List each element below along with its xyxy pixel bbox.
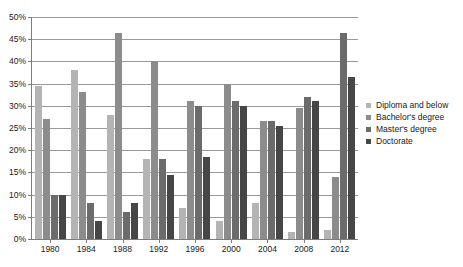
legend-item[interactable]: Bachelor's degree (366, 113, 448, 122)
bar (276, 126, 283, 239)
bar (151, 61, 158, 239)
bar-group (249, 17, 285, 239)
bar-group (104, 17, 140, 239)
legend-item[interactable]: Doctorate (366, 137, 448, 146)
bar (59, 195, 66, 239)
y-tick-label: 0% (14, 235, 26, 244)
bars-layer (32, 17, 358, 239)
bar (43, 119, 50, 239)
bar-group (141, 17, 177, 239)
bar-group (68, 17, 104, 239)
legend-swatch-icon (366, 127, 371, 132)
x-tick-mark (340, 239, 341, 243)
bar (252, 203, 259, 239)
legend-label: Bachelor's degree (376, 113, 444, 122)
x-tick-mark (50, 239, 51, 243)
bar (51, 195, 58, 239)
y-tick-mark (28, 239, 32, 240)
y-tick-label: 35% (9, 79, 26, 88)
legend-label: Diploma and below (376, 101, 448, 110)
bar (167, 175, 174, 239)
y-tick-label: 25% (9, 124, 26, 133)
bar (35, 86, 42, 239)
x-tick-mark (267, 239, 268, 243)
bar-group (32, 17, 68, 239)
x-tick-mark (195, 239, 196, 243)
y-tick-label: 50% (9, 13, 26, 22)
bar (332, 177, 339, 239)
bar (115, 33, 122, 239)
bar (304, 97, 311, 239)
bar (224, 84, 231, 239)
x-tick-label: 2012 (330, 245, 349, 254)
x-tick-label: 2008 (294, 245, 313, 254)
y-tick-label: 30% (9, 102, 26, 111)
bar (348, 77, 355, 239)
bar (87, 203, 94, 239)
x-tick-label: 1980 (41, 245, 60, 254)
bar (95, 221, 102, 239)
x-tick-mark (304, 239, 305, 243)
x-tick-mark (231, 239, 232, 243)
y-tick-label: 45% (9, 35, 26, 44)
bar (131, 203, 138, 239)
bar (324, 230, 331, 239)
x-tick-mark (86, 239, 87, 243)
bar (288, 232, 295, 239)
bar-chart: 0%5%10%15%20%25%30%35%40%45%50% 19801984… (0, 0, 463, 267)
bar-group (322, 17, 358, 239)
bar (268, 121, 275, 239)
legend-swatch-icon (366, 139, 371, 144)
bar (159, 159, 166, 239)
legend-swatch-icon (366, 103, 371, 108)
plot-area: 0%5%10%15%20%25%30%35%40%45%50% 19801984… (31, 17, 358, 240)
x-tick-label: 2000 (222, 245, 241, 254)
x-tick-mark (159, 239, 160, 243)
y-tick-label: 15% (9, 168, 26, 177)
bar (123, 212, 130, 239)
x-tick-label: 1988 (113, 245, 132, 254)
bar (216, 221, 223, 239)
x-tick-mark (123, 239, 124, 243)
bar (312, 101, 319, 239)
y-tick-label: 20% (9, 146, 26, 155)
bar (240, 106, 247, 239)
bar (260, 121, 267, 239)
legend-swatch-icon (366, 115, 371, 120)
y-tick-label: 40% (9, 57, 26, 66)
x-tick-label: 1996 (186, 245, 205, 254)
x-tick-label: 1984 (77, 245, 96, 254)
legend-label: Master's degree (376, 125, 437, 134)
bar-group (213, 17, 249, 239)
bar-group (286, 17, 322, 239)
bar (340, 33, 347, 239)
bar (187, 101, 194, 239)
bar-group (177, 17, 213, 239)
y-tick-label: 10% (9, 190, 26, 199)
bar (71, 70, 78, 239)
x-tick-label: 1992 (149, 245, 168, 254)
bar (179, 208, 186, 239)
y-tick-label: 5% (14, 213, 26, 222)
legend-label: Doctorate (376, 137, 413, 146)
bar (296, 108, 303, 239)
bar (79, 92, 86, 239)
bar (232, 101, 239, 239)
legend-item[interactable]: Diploma and below (366, 101, 448, 110)
bar (107, 115, 114, 239)
x-tick-label: 2004 (258, 245, 277, 254)
legend-item[interactable]: Master's degree (366, 125, 448, 134)
bar (195, 106, 202, 239)
legend: Diploma and belowBachelor's degreeMaster… (366, 101, 448, 146)
bar (203, 157, 210, 239)
bar (143, 159, 150, 239)
